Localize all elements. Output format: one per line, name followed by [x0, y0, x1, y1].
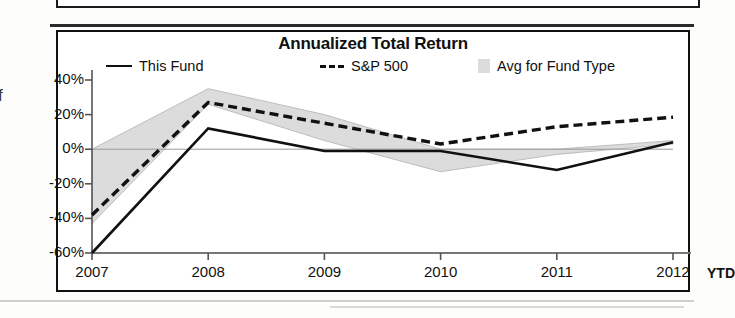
- margin-text-fragment: f: [0, 86, 3, 106]
- y-axis-tick-label: -20%: [30, 174, 84, 191]
- plot-area: [58, 32, 692, 294]
- x-axis-tick-label: 2012: [643, 263, 703, 280]
- scanned-page-panel-above: [56, 0, 700, 8]
- y-axis-tick-label: -60%: [30, 243, 84, 260]
- x-axis-tick-label: 2007: [62, 263, 122, 280]
- y-axis-tick-label: 40%: [30, 70, 84, 87]
- chart-panel: Annualized Total Return This Fund S&P 50…: [56, 30, 690, 292]
- x-axis-tick-label: 2010: [411, 263, 471, 280]
- scan-bottom-edge-secondary: [330, 306, 684, 308]
- scan-bottom-edge: [0, 300, 694, 302]
- x-axis-tick-label: 2008: [178, 263, 238, 280]
- scan-seam-line: [50, 24, 694, 27]
- x-axis-tick-label: 2009: [294, 263, 354, 280]
- chart-plot-svg: [58, 32, 692, 294]
- y-axis-tick-label: 0%: [30, 139, 84, 156]
- y-axis-tick-label: 20%: [30, 105, 84, 122]
- x-axis-tick-label: 2011: [527, 263, 587, 280]
- y-axis-tick-label: -40%: [30, 208, 84, 225]
- x-axis-ytd-label: YTD: [707, 265, 735, 281]
